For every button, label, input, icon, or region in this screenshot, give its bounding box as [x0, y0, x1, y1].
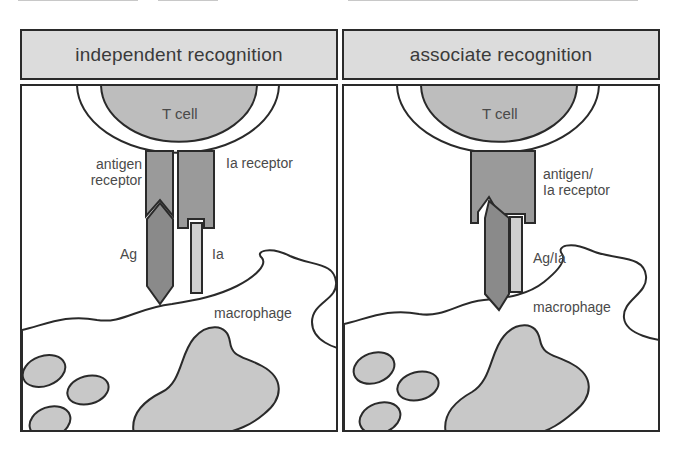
combined-receptor-label-line2: Ia receptor	[543, 182, 610, 198]
ia-label: Ia	[212, 246, 224, 262]
ia-molecule-shape	[510, 217, 522, 292]
macrophage-label: macrophage	[533, 299, 611, 315]
associate-recognition-illustration	[344, 86, 660, 432]
combined-receptor-label: antigen/ Ia receptor	[543, 166, 610, 198]
antigen-shape	[147, 203, 173, 304]
tcell-label: T cell	[482, 106, 518, 122]
ia-receptor-label: Ia receptor	[226, 155, 293, 171]
antigen-receptor-label-line1: antigen	[82, 156, 142, 172]
panel-title: independent recognition	[20, 29, 338, 80]
antigen-shape	[485, 201, 509, 310]
ia-molecule-shape	[191, 223, 202, 293]
complex-label: Ag/Ia	[533, 250, 566, 266]
macrophage-label: macrophage	[214, 305, 292, 321]
ia-receptor-shape	[178, 151, 214, 228]
panel-title: associate recognition	[342, 29, 660, 80]
antigen-receptor-label-line2: receptor	[82, 172, 142, 188]
panel-body: T cell antigen/ Ia receptor Ag/Ia macrop…	[342, 84, 660, 432]
panel-body: T cell antigen receptor Ia receptor Ag I…	[20, 84, 338, 432]
cropped-text-line	[18, 0, 658, 5]
independent-recognition-illustration	[22, 86, 338, 432]
tcell-label: T cell	[162, 106, 198, 122]
antigen-label: Ag	[120, 246, 137, 262]
combined-receptor-label-line1: antigen/	[543, 166, 610, 182]
antigen-receptor-label: antigen receptor	[82, 156, 142, 188]
